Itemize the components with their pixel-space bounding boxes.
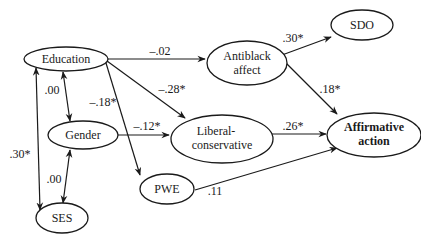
coef-gender-ses: .00 — [47, 172, 62, 186]
node-affirmative-action: Affirmative action — [327, 113, 421, 157]
node-sdo-label: SDO — [350, 18, 374, 32]
edge-gender-ses — [63, 150, 70, 203]
node-antiblack-label-2: affect — [233, 63, 261, 77]
node-ses: SES — [36, 203, 88, 233]
coef-education-libcon: –.28* — [158, 82, 186, 96]
coef-education-pwe: –.18* — [89, 95, 117, 109]
node-pwe-label: PWE — [154, 182, 179, 196]
coef-education-antiblack: –.02 — [149, 44, 171, 58]
node-gender: Gender — [48, 121, 118, 149]
node-liberal-conservative: Liberal- conservative — [171, 115, 273, 163]
node-antiblack-affect: Antiblack affect — [207, 41, 287, 85]
path-diagram: –.02 –.28* –.18* .00 .30* .00 –.12* .30*… — [0, 0, 421, 245]
coef-education-gender: .00 — [45, 83, 60, 97]
coef-pwe-affirm: .11 — [208, 184, 223, 198]
node-ses-label: SES — [52, 211, 73, 225]
edge-education-ses — [36, 68, 40, 210]
node-affirm-label-1: Affirmative — [344, 120, 405, 134]
coef-antiblack-affirm: .18* — [320, 82, 341, 96]
node-libcon-label-1: Liberal- — [197, 124, 236, 138]
coef-libcon-affirm: .26* — [283, 119, 304, 133]
node-education: Education — [24, 47, 108, 71]
node-affirm-label-2: action — [358, 134, 390, 148]
coef-antiblack-sdo: .30* — [283, 31, 304, 45]
node-pwe: PWE — [140, 174, 194, 204]
node-libcon-label-2: conservative — [192, 138, 253, 152]
node-education-label: Education — [42, 52, 91, 66]
edge-education-gender — [63, 72, 70, 121]
coef-education-ses: .30* — [10, 147, 31, 161]
node-antiblack-label-1: Antiblack — [223, 49, 270, 63]
node-sdo: SDO — [331, 10, 393, 40]
node-gender-label: Gender — [65, 128, 100, 142]
coef-gender-libcon: –.12* — [133, 119, 161, 133]
